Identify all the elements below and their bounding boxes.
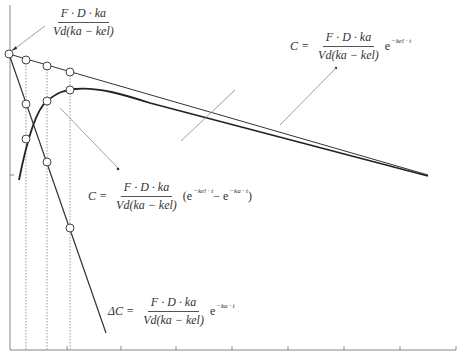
- intercept-equation: F · D · kaVd(ka − kel): [47, 6, 120, 39]
- elimination-equation: C = F · D · kaVd(ka − kel) e−kel · t: [290, 30, 411, 63]
- concentration-curve: [19, 89, 428, 180]
- concentration-equation: C = F · D · kaVd(ka − kel) (e−kel · t − …: [88, 180, 252, 213]
- x-ticks: [67, 346, 456, 350]
- residual-equation: ΔC = F · D · kaVd(ka − kel) e−ka · t: [108, 295, 235, 328]
